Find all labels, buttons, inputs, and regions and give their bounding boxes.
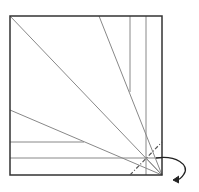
fold-arrow-path	[156, 157, 185, 180]
arrowhead-icon	[173, 176, 179, 183]
crease-fan-1	[146, 158, 162, 175]
creases	[10, 16, 162, 175]
origami-diagram	[0, 0, 199, 192]
crease-diagonal-main	[10, 16, 162, 175]
